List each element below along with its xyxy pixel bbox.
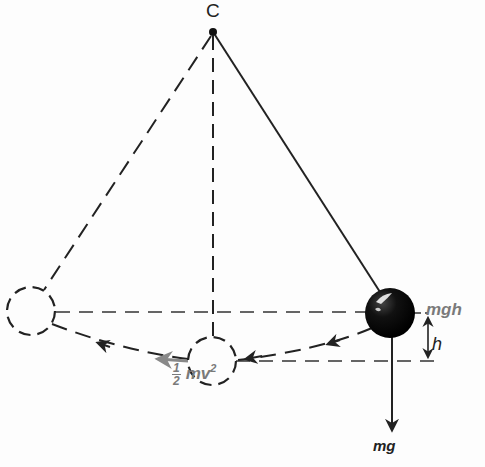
diagram-canvas bbox=[0, 0, 485, 467]
swing-arc-right bbox=[238, 328, 372, 360]
pivot-label: C bbox=[206, 0, 220, 22]
fraction-half: 1 2 bbox=[172, 362, 181, 387]
pendulum-diagram: C mgh h mg 1 2 mv2 bbox=[0, 0, 485, 467]
weight-label: mg bbox=[373, 437, 396, 454]
swing-arc-left bbox=[52, 324, 188, 359]
right-solid-string bbox=[215, 35, 380, 292]
pendulum-bob bbox=[365, 288, 415, 338]
potential-energy-label: mgh bbox=[426, 300, 462, 320]
left-bob-outline bbox=[7, 287, 55, 335]
kinetic-energy-label: 1 2 mv2 bbox=[172, 362, 216, 387]
height-label: h bbox=[432, 334, 442, 355]
left-dashed-string bbox=[44, 36, 211, 290]
kinetic-energy-exponent: 2 bbox=[210, 362, 216, 374]
fraction-denominator: 2 bbox=[172, 375, 181, 387]
arc-arrow-right-2 bbox=[246, 356, 262, 359]
kinetic-energy-body: mv bbox=[186, 364, 211, 383]
